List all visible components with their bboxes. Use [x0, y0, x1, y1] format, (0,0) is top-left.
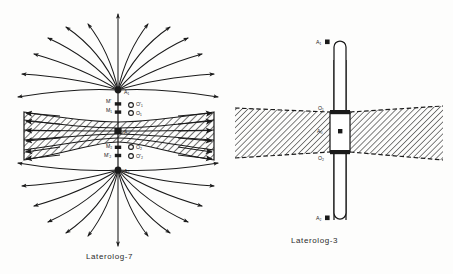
label-ring-o-prime-1: O'₁	[136, 101, 143, 107]
label-a0-ll3: A₀	[317, 128, 323, 134]
left-bed-fill	[235, 108, 330, 158]
caption-laterolog-3: Laterolog-3	[291, 236, 338, 245]
electrode-a1	[115, 87, 122, 94]
label-a1-ll3: A₁	[316, 39, 321, 45]
right-hatched-bed	[350, 106, 443, 160]
electrode-m-prime-1	[115, 102, 121, 105]
label-ring-o1: O₁	[136, 110, 142, 116]
label-m1: M₁	[106, 107, 112, 113]
label-a2-ll3: A₂	[316, 215, 321, 221]
right-bed-fill	[350, 106, 443, 160]
label-m2: M₂	[106, 143, 112, 149]
left-hatched-bed	[235, 108, 330, 158]
gap-ring-o2	[330, 150, 350, 154]
electrode-a0	[114, 128, 121, 134]
label-ring-o2: O₂	[136, 144, 142, 150]
electrode-a1-ll3	[325, 40, 330, 45]
label-a1: A₁	[124, 89, 129, 95]
beam-arrow	[178, 131, 212, 132]
label-o1-ll3: O₁	[318, 105, 324, 111]
electrode-m2	[115, 146, 121, 149]
label-o2-ll3: O₂	[318, 155, 324, 161]
beam-arrow	[26, 131, 60, 132]
electrode-a0-ll3	[338, 129, 342, 133]
electrode-a2	[115, 167, 122, 174]
label-m-prime-2: M'₂	[104, 152, 111, 158]
label-m-prime-1: M'	[106, 98, 111, 104]
electrode-m-prime-2	[115, 154, 121, 157]
gap-ring-o1	[330, 110, 350, 114]
label-a0: A₀	[124, 129, 130, 135]
electrode-m1	[115, 110, 121, 113]
caption-laterolog-7: Laterolog-7	[86, 252, 133, 261]
electrode-a2-ll3	[325, 216, 330, 221]
label-a2: A₂	[124, 168, 129, 174]
label-ring-o-prime-2: O'₂	[136, 153, 143, 159]
logging-tool-figure: A₁ M' M₁ A₀ M₂ M'₂ A₂ O'₁ O₁ O₂ O'₂	[0, 0, 453, 274]
